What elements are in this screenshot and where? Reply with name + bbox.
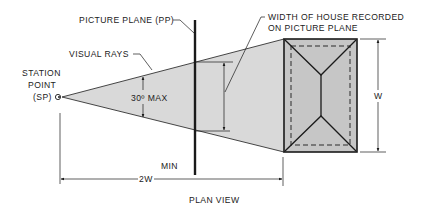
visual-rays-label: VISUAL RAYS xyxy=(69,49,129,59)
min-label: MIN xyxy=(161,161,178,171)
station-point-label-2: POINT xyxy=(28,80,57,90)
visual-rays-leader xyxy=(133,54,152,70)
plan-view-diagram: W 30º MAX STATION POINT (SP) PICTURE PLA… xyxy=(0,0,426,212)
width-recorded-label-1: WIDTH OF HOUSE RECORDED xyxy=(268,12,404,22)
eye-icon xyxy=(55,94,60,99)
station-point-label-1: STATION xyxy=(22,68,61,78)
station-point-label-3: (SP) xyxy=(33,92,52,102)
picture-plane-leader xyxy=(173,20,194,33)
distance-label: 2W xyxy=(139,174,153,184)
picture-plane-label: PICTURE PLANE (PP) xyxy=(79,15,174,25)
plan-view-caption: PLAN VIEW xyxy=(189,195,240,205)
width-recorded-label-2: ON PICTURE PLANE xyxy=(268,23,358,33)
w-label: W xyxy=(374,91,383,101)
angle-label: 30º MAX xyxy=(131,93,168,103)
